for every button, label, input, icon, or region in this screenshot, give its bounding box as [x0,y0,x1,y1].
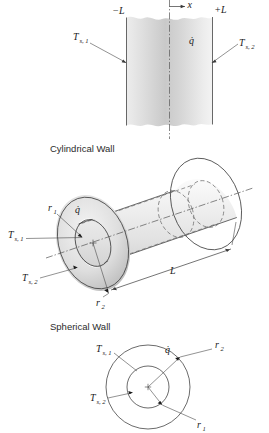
x-axis-arrow [170,5,186,8]
surface-temp-1-subscript-sphere: s, 1 [103,349,112,356]
inner-radius-leader-sphere [148,387,161,404]
surface-temp-2-leader-sphere [108,393,131,398]
plane-wall-body [124,12,216,130]
inner-radius-dimension-sphere: r 1 [148,387,206,432]
surface-temp-1-subscript-cylinder: s, 1 [15,235,24,242]
cylinder-barrel [62,179,237,268]
panel-plane-wall: x −L +L q̇ T s, 1 T s, 2 [73,0,255,139]
q-dot-generation-label-cylinder: q̇ [75,204,80,215]
outer-radius-symbol-cylinder: r [96,297,100,308]
minus-L-label: −L [112,5,125,16]
panel-cylindrical-wall: Cylindrical Wall [8,143,253,310]
q-dot-generation-label-sphere: q̇ [165,344,170,355]
surface-temp-2-subscript-sphere: s, 2 [97,398,107,405]
inner-radius-subscript-sphere: 1 [203,425,206,432]
inner-radius-symbol-sphere: r [197,419,201,430]
outer-radius-symbol-sphere: r [215,339,219,350]
heat-transfer-wall-geometries-figure: x −L +L q̇ T s, 1 T s, 2 Cylindrical Wal… [0,0,269,433]
surface-temp-1-label-plane: T s, 1 [73,31,127,63]
surface-temp-1-leader-plane [90,43,125,62]
surface-temp-2-label-sphere: T s, 2 [90,391,133,405]
x-axis-label: x [187,0,193,10]
spherical-wall-caption: Spherical Wall [50,321,110,332]
surface-temp-1-label-sphere: T s, 1 [96,343,137,371]
inner-radius-symbol-cylinder: r [48,202,52,213]
outer-radius-subscript-cylinder: 2 [102,303,106,310]
surface-temp-2-subscript-plane: s, 2 [246,43,256,50]
surface-temp-1-leader-sphere [114,353,137,371]
outer-radius-dimension-sphere: r 2 [148,339,225,387]
surface-temp-2-label-plane: T s, 2 [212,37,256,63]
surface-temp-1-subscript-plane: s, 1 [80,37,89,44]
panel-spherical-wall: Spherical Wall q̇ r 2 r 1 [50,321,225,432]
outer-radius-subscript-sphere: 2 [221,345,225,352]
surface-temp-2-leader-plane [213,44,238,62]
cylindrical-wall-caption: Cylindrical Wall [50,143,115,154]
surface-temp-2-subscript-cylinder: s, 2 [29,278,39,285]
inner-radius-subscript-cylinder: 1 [54,208,57,215]
q-dot-generation-label-plane: q̇ [189,35,194,46]
plus-L-label: +L [214,4,227,15]
length-label-cylinder: L [169,265,176,276]
outer-radius-leader-sphere [148,359,179,388]
